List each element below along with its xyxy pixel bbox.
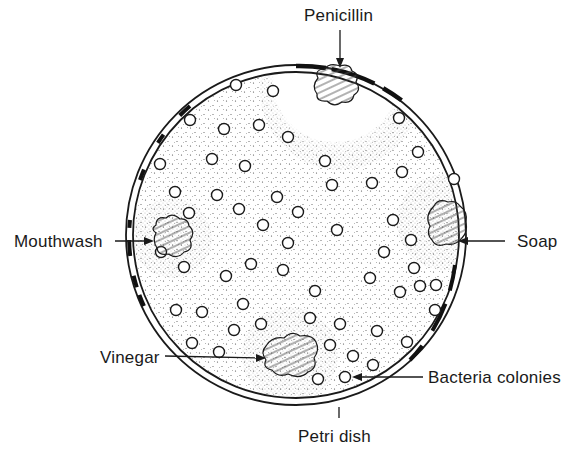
sample-soap [428, 201, 467, 246]
label-petri-dish: Petri dish [298, 428, 371, 445]
sample-vinegar [263, 333, 318, 376]
label-bacteria-colonies: Bacteria colonies [428, 369, 561, 386]
sample-penicillin [314, 65, 358, 105]
label-mouthwash: Mouthwash [14, 233, 103, 250]
label-vinegar: Vinegar [100, 349, 160, 366]
label-penicillin: Penicillin [304, 7, 373, 24]
sample-mouthwash [153, 215, 193, 256]
petri-dish-diagram [0, 0, 583, 459]
label-soap: Soap [517, 233, 558, 250]
